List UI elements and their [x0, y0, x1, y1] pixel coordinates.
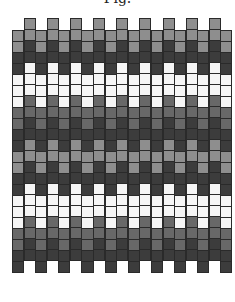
pattern-column	[35, 30, 47, 273]
pattern-column	[93, 18, 105, 261]
pattern-column	[163, 18, 175, 261]
pattern-cell-dark	[58, 261, 70, 273]
pattern-cell-dark	[93, 249, 105, 261]
pattern-cell-dark	[186, 249, 198, 261]
woven-pattern-grid	[12, 0, 232, 302]
pattern-cell-dark	[81, 261, 93, 273]
pattern-column	[105, 30, 117, 273]
pattern-column	[220, 30, 232, 273]
pattern-cell-dark	[209, 249, 221, 261]
pattern-cell-dark	[12, 261, 24, 273]
pattern-column	[174, 30, 186, 273]
pattern-column	[197, 30, 209, 273]
pattern-column	[151, 30, 163, 273]
pattern-cell-dark	[105, 261, 117, 273]
pattern-column	[139, 18, 151, 261]
pattern-column	[12, 30, 24, 273]
pattern-cell-dark	[197, 261, 209, 273]
pattern-cell-dark	[47, 249, 59, 261]
pattern-column	[70, 18, 82, 261]
pattern-cell-dark	[128, 261, 140, 273]
pattern-column	[209, 18, 221, 261]
pattern-cell-dark	[174, 261, 186, 273]
pattern-column	[81, 30, 93, 273]
pattern-column	[58, 30, 70, 273]
pattern-cell-dark	[70, 249, 82, 261]
pattern-column	[186, 18, 198, 261]
pattern-cell-dark	[35, 261, 47, 273]
pattern-column	[116, 18, 128, 261]
pattern-cell-dark	[116, 249, 128, 261]
pattern-cell-dark	[151, 261, 163, 273]
pattern-cell-dark	[220, 261, 232, 273]
pattern-column	[24, 18, 36, 261]
pattern-cell-dark	[163, 249, 175, 261]
pattern-column	[47, 18, 59, 261]
pattern-column	[128, 30, 140, 273]
pattern-cell-dark	[24, 249, 36, 261]
pattern-cell-dark	[139, 249, 151, 261]
